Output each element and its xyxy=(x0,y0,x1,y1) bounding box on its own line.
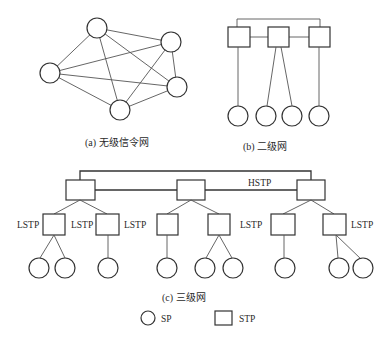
sp-node xyxy=(157,258,177,278)
sp-node xyxy=(329,258,349,278)
sp-node xyxy=(55,258,75,278)
sp-legend-icon xyxy=(141,311,155,325)
sp-node xyxy=(29,258,49,278)
sp-node xyxy=(167,77,187,97)
stp-legend-label: STP xyxy=(239,314,255,324)
sp-node xyxy=(309,106,329,126)
mesh-network: (a) 无级信令网 xyxy=(40,18,187,149)
caption-a: (a) 无级信令网 xyxy=(85,136,149,149)
sp-node xyxy=(353,258,373,278)
stp-legend-icon xyxy=(215,311,232,325)
hstp-node xyxy=(297,180,325,200)
lstp-node xyxy=(323,214,346,235)
hstp-label: HSTP xyxy=(248,178,271,188)
sp-node xyxy=(228,106,248,126)
sp-node xyxy=(275,258,295,278)
lstp-node xyxy=(208,214,230,235)
three-level-network: HSTP LSTP LSTP LSTP LSTP LSTP xyxy=(17,171,373,304)
lstp-node xyxy=(96,214,119,235)
lstp-label: LSTP xyxy=(351,220,373,230)
lstp-node xyxy=(271,214,295,235)
stp-node xyxy=(309,27,330,47)
sp-node xyxy=(98,258,118,278)
mesh-edges xyxy=(50,28,177,110)
legend: SP STP xyxy=(141,311,255,325)
lstp-label: LSTP xyxy=(240,220,262,230)
hstp-node xyxy=(177,180,205,200)
lstp-node xyxy=(43,214,65,235)
sp-node xyxy=(110,100,130,120)
two-level-network: (b) 二级网 xyxy=(228,19,330,153)
caption-c: (c) 三级网 xyxy=(162,292,206,304)
sp-node xyxy=(282,106,302,126)
stp-node xyxy=(268,27,289,47)
sp-node xyxy=(195,258,215,278)
sp-node xyxy=(40,63,60,83)
sp-node xyxy=(256,106,276,126)
hstp-node xyxy=(66,180,95,200)
sp-node xyxy=(87,18,107,38)
lstp-label: LSTP xyxy=(17,220,39,230)
sp-node xyxy=(223,258,243,278)
lstp-label: LSTP xyxy=(124,220,146,230)
sp-legend-label: SP xyxy=(161,314,172,324)
stp-node xyxy=(228,27,250,47)
signaling-network-diagram: (a) 无级信令网 (b) 二级网 HSTP xyxy=(0,0,392,343)
sp-node xyxy=(161,32,181,52)
caption-b: (b) 二级网 xyxy=(243,141,287,153)
lstp-node xyxy=(157,214,178,235)
lstp-label: LSTP xyxy=(71,220,93,230)
